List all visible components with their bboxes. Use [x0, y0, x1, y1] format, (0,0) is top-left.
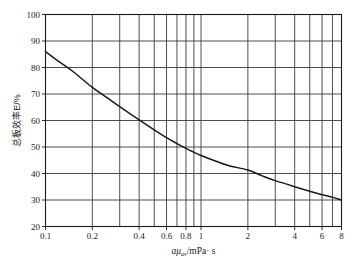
- x-tick-label: 0.8: [180, 231, 192, 241]
- y-tick-label: 100: [27, 10, 41, 20]
- y-tick-label: 40: [31, 169, 41, 179]
- y-tick-label: 80: [31, 63, 41, 73]
- y-tick-label: 30: [31, 195, 41, 205]
- y-tick-label: 60: [31, 116, 41, 126]
- x-tick-label: 8: [339, 231, 344, 241]
- y-axis-title: 总板效率E/%: [11, 94, 22, 147]
- x-tick-label: 6: [320, 231, 325, 241]
- x-tick-label: 1: [199, 231, 204, 241]
- chart-container: 0.10.20.40.60.8124682030405060708090100a…: [0, 0, 356, 262]
- y-tick-label: 90: [31, 36, 41, 46]
- y-tick-label: 70: [31, 89, 41, 99]
- x-tick-label: 0.2: [87, 231, 98, 241]
- x-tick-label: 0.4: [134, 231, 146, 241]
- y-tick-label: 50: [31, 142, 41, 152]
- plate-efficiency-chart: 0.10.20.40.60.8124682030405060708090100a…: [0, 0, 356, 262]
- x-tick-label: 0.6: [161, 231, 173, 241]
- x-tick-label: 0.1: [40, 231, 51, 241]
- y-tick-label: 20: [31, 222, 41, 232]
- x-axis: 0.10.20.40.60.812468: [40, 227, 344, 241]
- x-axis-title: aμav/mPa· s: [172, 246, 216, 257]
- gridlines: [46, 15, 342, 227]
- x-tick-label: 4: [292, 231, 297, 241]
- x-axis-title-unit: /mPa· s: [187, 246, 216, 256]
- x-tick-label: 2: [246, 231, 251, 241]
- y-axis: 2030405060708090100: [27, 10, 46, 232]
